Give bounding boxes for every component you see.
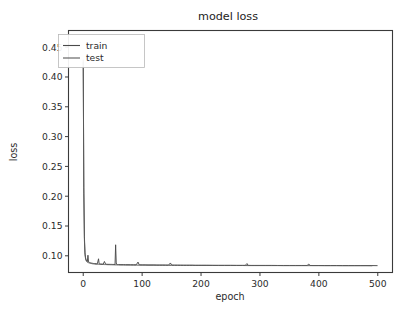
x-tick-label: 500 xyxy=(369,278,387,289)
x-axis-label: epoch xyxy=(215,291,244,302)
figure-canvas: model loss 0100200300400500 0.100.150.20… xyxy=(0,0,411,311)
legend-label-train: train xyxy=(86,40,108,51)
y-tick-label: 0.35 xyxy=(42,101,63,112)
y-axis-label: loss xyxy=(8,143,19,162)
x-tick-label: 200 xyxy=(192,278,210,289)
x-tick-label: 100 xyxy=(133,278,151,289)
y-tick-label: 0.40 xyxy=(42,71,63,82)
legend[interactable]: traintest xyxy=(59,35,145,68)
model-loss-line-chart: model loss 0100200300400500 0.100.150.20… xyxy=(0,0,411,311)
y-tick-label: 0.25 xyxy=(42,161,63,172)
y-tick-label: 0.20 xyxy=(42,191,63,202)
x-tick-label: 0 xyxy=(80,278,86,289)
y-tick-label: 0.30 xyxy=(42,131,63,142)
y-tick-label: 0.10 xyxy=(42,250,63,261)
chart-title: model loss xyxy=(198,10,258,23)
legend-label-test: test xyxy=(86,52,104,63)
x-tick-label: 300 xyxy=(251,278,269,289)
y-tick-label: 0.15 xyxy=(42,220,63,231)
x-tick-label: 400 xyxy=(310,278,328,289)
